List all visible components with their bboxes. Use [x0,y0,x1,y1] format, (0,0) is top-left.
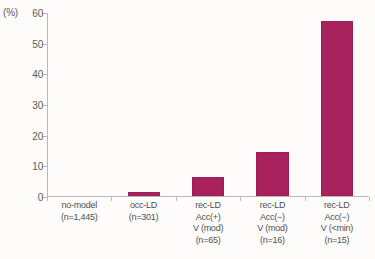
y-axis-tick-label: 10 [32,161,43,172]
category-label-line: V (mod) [241,223,303,235]
category-label-line: rec-LD [306,200,368,212]
bar [321,21,353,196]
category-label-line: occ-LD [112,200,174,212]
category-label-line: (n=1,445) [48,212,110,224]
x-axis-line [47,196,369,197]
bar-series [47,13,369,196]
x-axis-category-label: no-model(n=1,445) [47,200,111,246]
category-label-line: (n=16) [241,235,303,247]
category-label-line: V (mod) [177,223,239,235]
x-axis-category-labels: no-model(n=1,445)occ-LD(n=301)rec-LDAcc(… [47,200,369,246]
category-label-line: V (<min) [306,223,368,235]
category-label-line: rec-LD [177,200,239,212]
y-axis-tick-label: 30 [32,100,43,111]
x-axis-category-label: rec-LDAcc(+)V (mod)(n=65) [176,200,240,246]
category-label-line: (n=65) [177,235,239,247]
category-label-line: no-model [48,200,110,212]
x-axis-tick-mark [369,197,370,201]
bar-slot [240,13,304,196]
category-label-line: (n=15) [306,235,368,247]
bar-chart-figure: (%) 0102030405060 no-model(n=1,445)occ-L… [0,0,375,259]
y-axis-tick-label: 40 [32,69,43,80]
x-axis-category-label: rec-LDAcc(−)V (mod)(n=16) [240,200,304,246]
y-axis-tick-label: 20 [32,130,43,141]
bar [128,192,160,196]
y-axis-tick-label: 60 [32,8,43,19]
bar-slot [305,13,369,196]
category-label-line: Acc(−) [241,212,303,224]
y-axis-tick-label: 0 [38,192,43,203]
category-label-line: Acc(+) [177,212,239,224]
bar [256,152,288,196]
category-label-line: Acc(−) [306,212,368,224]
category-label-line: rec-LD [241,200,303,212]
plot-area: 0102030405060 [47,13,369,197]
y-axis-tick-label: 50 [32,38,43,49]
category-label-line: (n=301) [112,212,174,224]
bar-slot [47,13,111,196]
bar [192,177,224,196]
bar-slot [176,13,240,196]
y-axis-unit-label: (%) [3,7,18,18]
x-axis-category-label: occ-LD(n=301) [111,200,175,246]
x-axis-category-label: rec-LDAcc(−)V (<min)(n=15) [305,200,369,246]
bar-slot [111,13,175,196]
